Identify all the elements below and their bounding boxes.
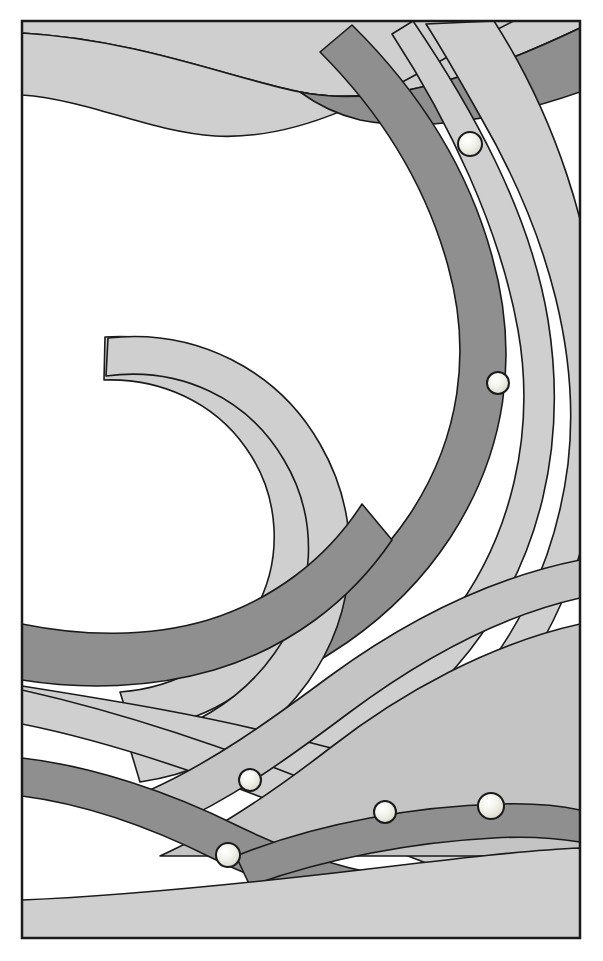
artboard	[0, 0, 603, 961]
sphere-4	[374, 801, 396, 823]
abstract-ribbon-illustration	[0, 0, 603, 961]
sphere-6	[216, 843, 240, 867]
sphere-1	[458, 132, 482, 156]
sphere-5	[478, 793, 504, 819]
sphere-3	[239, 769, 261, 791]
sphere-2	[487, 372, 509, 394]
